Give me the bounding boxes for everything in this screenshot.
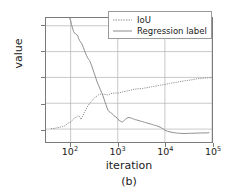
legend-item: Regression label bbox=[112, 25, 207, 36]
legend-line-swatch bbox=[112, 27, 133, 35]
x-tick-label: 102 bbox=[52, 146, 88, 157]
legend-item: IoU bbox=[112, 14, 207, 25]
x-tick-label: 103 bbox=[100, 146, 136, 157]
y-axis-label: value bbox=[12, 14, 25, 94]
chart-figure: value 0.20.40.60.81.0 102103104105 itera… bbox=[0, 0, 232, 193]
x-axis-label: iteration bbox=[45, 159, 213, 172]
figure-caption: (b) bbox=[45, 175, 213, 188]
legend-label: IoU bbox=[137, 15, 151, 25]
x-tick-mark bbox=[118, 143, 119, 147]
legend-line-swatch bbox=[112, 16, 133, 24]
x-tick-mark bbox=[213, 143, 214, 147]
x-tick-mark bbox=[70, 143, 71, 147]
chart-legend: IoURegression label bbox=[108, 11, 212, 39]
x-tick-label: 104 bbox=[147, 146, 183, 157]
x-tick-label: 105 bbox=[195, 146, 231, 157]
x-tick-mark bbox=[165, 143, 166, 147]
legend-label: Regression label bbox=[137, 26, 207, 36]
